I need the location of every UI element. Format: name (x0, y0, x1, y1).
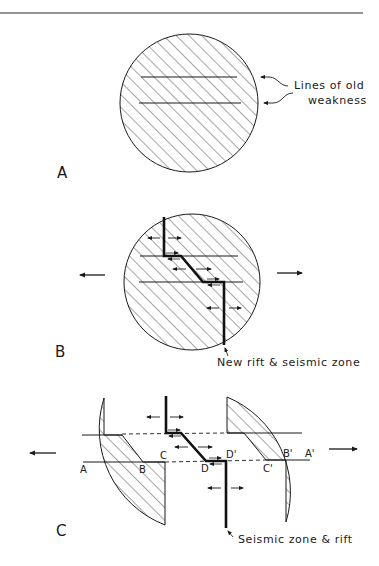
point-label-d: D (201, 463, 209, 474)
leader-arrow-upper (261, 77, 288, 86)
leader-arrow-rift (225, 348, 228, 356)
panel-label-a: A (57, 164, 68, 182)
rift-diagram: Lines of old weakness A New rift & seism… (0, 0, 379, 566)
annotation-new-rift: New rift & seismic zone (217, 356, 360, 369)
panel-label-c: C (56, 522, 66, 540)
leader-arrow-seismic (228, 531, 233, 537)
point-label-c: C (160, 450, 167, 461)
point-label-c-prime: C' (263, 463, 273, 474)
point-label-b: B (139, 464, 146, 475)
annotation-seismic-zone: Seismic zone & rift (238, 533, 353, 546)
panel-label-b: B (55, 343, 65, 361)
panel-c: A B C D D' C' B' A' Seismic zone & rift … (30, 396, 357, 546)
point-label-a-prime: A' (305, 448, 315, 459)
point-label-d-prime: D' (226, 449, 236, 460)
annotation-weakness: weakness (308, 94, 367, 107)
point-label-b-prime: B' (283, 448, 293, 459)
annotation-lines-of-old: Lines of old (294, 79, 364, 92)
leader-arrow-lower (264, 93, 293, 103)
panel-a: Lines of old weakness A (57, 34, 367, 182)
panel-b: New rift & seismic zone B (55, 214, 360, 369)
point-label-a: A (80, 464, 87, 475)
